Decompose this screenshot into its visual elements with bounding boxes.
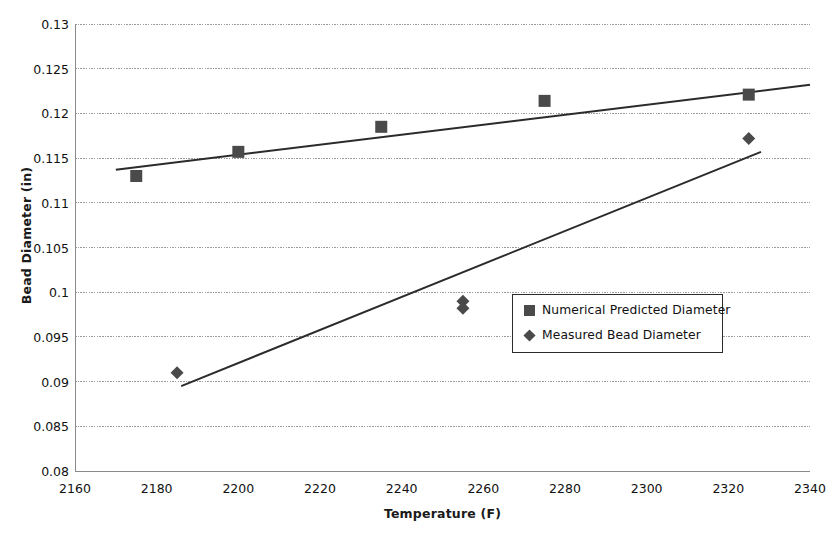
square-marker-icon bbox=[524, 305, 535, 316]
legend-label-measured-bead: Measured Bead Diameter bbox=[542, 328, 701, 342]
gridlines bbox=[75, 24, 810, 471]
diamond-marker-icon bbox=[523, 329, 535, 341]
legend-entry-measured-bead: Measured Bead Diameter bbox=[524, 328, 701, 342]
legend: Numerical Predicted Diameter Measured Be… bbox=[512, 294, 723, 353]
legend-label-numerical-predicted: Numerical Predicted Diameter bbox=[542, 303, 730, 317]
plot-area bbox=[0, 0, 828, 533]
legend-entry-numerical-predicted: Numerical Predicted Diameter bbox=[524, 303, 730, 317]
scatter-chart: Bead Diameter (in) 0.080.0850.090.0950.1… bbox=[0, 0, 828, 533]
